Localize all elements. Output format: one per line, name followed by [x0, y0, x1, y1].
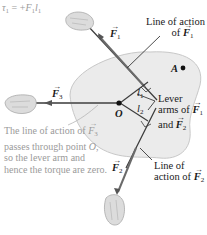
label-l1: l1 — [137, 87, 143, 102]
annotation-lever-arms: Lever arms of F1 and F2 — [158, 93, 203, 134]
hand-f3-icon — [5, 95, 36, 114]
point-o-dot — [116, 100, 121, 105]
annotation-f3-note: The line of action of F3 passes through … — [4, 125, 107, 175]
label-f2: F2 — [112, 162, 123, 177]
label-l2: l2 — [137, 103, 143, 118]
arrowhead-f3 — [44, 100, 52, 106]
annotation-line-of-action-f2: Line of action of F2 — [154, 160, 204, 186]
annotation-line-of-action-f1: Line of action of F1 — [146, 16, 205, 42]
label-f3: F3 — [52, 88, 63, 103]
label-point-a: A — [171, 63, 178, 74]
torque-equation: τ1 = +F1l1 — [2, 2, 41, 17]
hand-f1-icon — [66, 12, 94, 30]
label-point-o: O — [115, 108, 123, 119]
point-a-dot — [181, 66, 186, 71]
hand-f2-icon — [104, 195, 124, 225]
label-f1: F1 — [110, 28, 121, 43]
